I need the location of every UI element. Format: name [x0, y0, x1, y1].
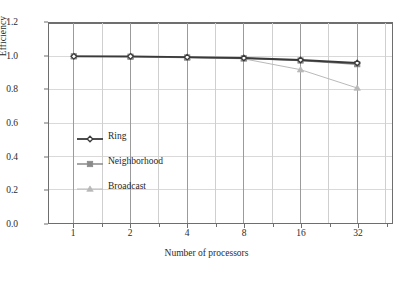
- x-tick-mark-minor: [387, 224, 388, 227]
- efficiency-line-chart: Efficiency RingNeighborhoodBroadcast 0.0…: [0, 0, 413, 281]
- x-tick-mark: [187, 224, 188, 228]
- y-tick-mark: [44, 55, 48, 56]
- x-axis-label: Number of processors: [0, 248, 413, 258]
- x-tick-mark: [301, 224, 302, 228]
- y-tick-mark: [44, 190, 48, 191]
- x-tick-label: 4: [167, 228, 207, 238]
- y-tick-mark: [44, 123, 48, 124]
- y-tick-mark: [44, 224, 48, 225]
- y-tick-label: 0.8: [0, 84, 18, 94]
- y-tick-label: 1.2: [0, 17, 18, 27]
- x-tick-label: 32: [338, 228, 378, 238]
- x-tick-mark-minor: [330, 224, 331, 227]
- x-tick-mark: [358, 224, 359, 228]
- x-tick-mark: [130, 224, 131, 228]
- x-tick-mark-minor: [273, 224, 274, 227]
- y-tick-label: 0.6: [0, 118, 18, 128]
- series-layer: [49, 23, 392, 223]
- x-tick-mark-minor: [159, 224, 160, 227]
- plot-area: RingNeighborhoodBroadcast: [48, 22, 393, 224]
- y-tick-label: 0.2: [0, 185, 18, 195]
- x-tick-label: 8: [224, 228, 264, 238]
- y-tick-label: 0.0: [0, 219, 18, 229]
- y-axis-label: Efficiency: [0, 0, 8, 96]
- x-tick-label: 1: [53, 228, 93, 238]
- y-tick-mark: [44, 156, 48, 157]
- y-tick-mark: [44, 22, 48, 23]
- y-tick-mark: [44, 89, 48, 90]
- x-tick-label: 16: [281, 228, 321, 238]
- x-tick-mark: [244, 224, 245, 228]
- x-tick-mark-minor: [102, 224, 103, 227]
- y-tick-label: 0.4: [0, 152, 18, 162]
- x-tick-mark-minor: [216, 224, 217, 227]
- x-tick-label: 2: [110, 228, 150, 238]
- x-tick-mark: [73, 224, 74, 228]
- y-tick-label: 1.0: [0, 51, 18, 61]
